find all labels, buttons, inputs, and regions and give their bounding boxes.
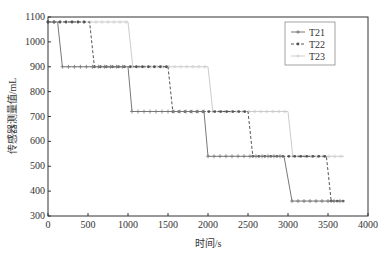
x-tick-label: 500 [81,219,96,230]
x-tick-label: 3500 [318,219,338,230]
y-tick-label: 1000 [25,36,45,47]
y-tick-label: 500 [30,160,45,171]
legend-label-t21: T21 [309,27,325,38]
x-tick-label: 1500 [158,219,178,230]
y-axis-ticks: 30040050060070080090010001100 [25,11,51,221]
x-axis-label: 时间/s [195,237,222,249]
x-tick-label: 0 [46,219,51,230]
x-tick-label: 3000 [278,219,298,230]
legend-label-t23: T23 [309,51,325,62]
y-tick-label: 300 [30,210,45,221]
step-line-chart: 05001000150020002500300035004000 3004005… [0,0,390,259]
x-tick-label: 2000 [198,219,218,230]
y-tick-label: 400 [30,185,45,196]
legend: T21T22T23 [285,22,335,65]
y-tick-label: 800 [30,86,45,97]
y-tick-label: 900 [30,61,45,72]
y-tick-label: 1100 [25,11,45,22]
x-tick-label: 4000 [358,219,378,230]
legend-label-t22: T22 [309,39,325,50]
x-tick-label: 2500 [238,219,258,230]
y-axis-label: 传感器测量值/mL [6,78,18,155]
y-tick-label: 600 [30,135,45,146]
y-tick-label: 700 [30,111,45,122]
x-tick-label: 1000 [118,219,138,230]
